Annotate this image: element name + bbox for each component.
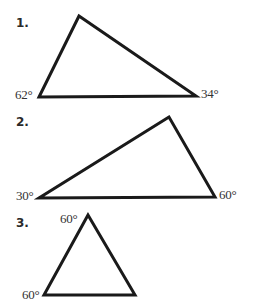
problem-3-angle-top: 60°	[60, 211, 77, 227]
problem-2-angle-bottom-left: 30°	[16, 188, 33, 204]
problem-3-angle-bottom-left: 60°	[22, 287, 39, 301]
problem-2-angle-bottom-right: 60°	[219, 187, 236, 203]
triangle-1	[0, 0, 259, 301]
problem-1-angle-bottom-left: 62°	[15, 87, 32, 103]
problem-2-number: 2.	[16, 115, 29, 129]
problem-3-number: 3.	[16, 216, 29, 230]
problem-1-angle-bottom-right: 34°	[201, 86, 218, 102]
